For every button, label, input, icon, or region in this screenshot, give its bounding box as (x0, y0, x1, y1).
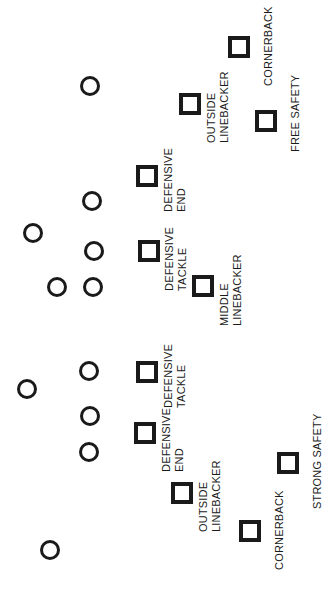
position-label-d-dt-bottom: DEFENSIVE TACKLE (162, 344, 187, 408)
defense-player-marker-d-cb-top (228, 36, 250, 58)
defensive-formation-diagram: CORNERBACKOUTSIDE LINEBACKERFREE SAFETYD… (0, 0, 332, 593)
defense-player-marker-d-dt-top (138, 240, 160, 262)
offense-player-marker (79, 361, 99, 381)
offense-player-marker (82, 191, 102, 211)
defense-player-marker-d-cb-bottom (239, 520, 261, 542)
offense-player-marker (17, 379, 37, 399)
offense-player-marker (79, 442, 99, 462)
defense-player-marker-d-ss (277, 452, 299, 474)
offense-player-marker (80, 406, 100, 426)
position-label-d-fs: FREE SAFETY (289, 75, 302, 152)
position-label-d-cb-top: CORNERBACK (262, 6, 275, 86)
defense-player-marker-d-fs (255, 110, 277, 132)
offense-player-marker (84, 241, 104, 261)
position-label-d-de-bottom: DEFENSIVE END (160, 408, 185, 472)
offense-player-marker (23, 223, 43, 243)
position-label-d-mlb: MIDDLE LINEBACKER (218, 254, 243, 326)
position-label-d-olb-top: OUTSIDE LINEBACKER (205, 71, 230, 143)
offense-player-marker (83, 277, 103, 297)
offense-player-marker (40, 540, 60, 560)
defense-player-marker-d-dt-bottom (136, 361, 158, 383)
defense-player-marker-d-olb-top (179, 93, 201, 115)
offense-player-marker (47, 277, 67, 297)
position-label-d-olb-bottom: OUTSIDE LINEBACKER (197, 460, 222, 532)
defense-player-marker-d-olb-bottom (171, 482, 193, 504)
defense-player-marker-d-mlb (192, 275, 214, 297)
defense-player-marker-d-de-bottom (134, 422, 156, 444)
defense-player-marker-d-de-top (136, 165, 158, 187)
offense-player-marker (80, 76, 100, 96)
position-label-d-ss: STRONG SAFETY (311, 414, 324, 510)
position-label-d-cb-bottom: CORNERBACK (273, 490, 286, 570)
position-label-d-dt-top: DEFENSIVE TACKLE (163, 227, 188, 291)
position-label-d-de-top: DEFENSIVE END (162, 148, 187, 212)
